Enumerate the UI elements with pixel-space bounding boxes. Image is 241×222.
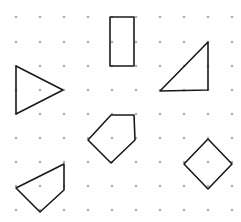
grid-dot [159, 209, 162, 212]
grid-dot [183, 185, 186, 188]
grid-dot [87, 16, 90, 19]
grid-dot [39, 65, 42, 68]
grid-dot [135, 209, 138, 212]
grid-dot [183, 16, 186, 19]
right-triangle-shape [160, 42, 208, 91]
grid-dot [183, 41, 186, 44]
grid-dot [159, 65, 162, 68]
grid-dot [63, 209, 66, 212]
rectangle-shape [110, 17, 134, 66]
grid-dot [63, 16, 66, 19]
grid-dot [135, 185, 138, 188]
grid-dot [159, 161, 162, 164]
grid-dot [63, 113, 66, 116]
grid-dot [135, 161, 138, 164]
shapes-layer [16, 17, 232, 212]
grid-dot [231, 209, 234, 212]
grid-dot [111, 209, 114, 212]
grid-dot [207, 161, 210, 164]
grid-dot [39, 89, 42, 92]
grid-dot [87, 185, 90, 188]
grid-dot [159, 41, 162, 44]
grid-dot [15, 41, 18, 44]
grid-dot [111, 41, 114, 44]
grid-dot [135, 89, 138, 92]
grid-dot [183, 209, 186, 212]
grid-dot [231, 137, 234, 140]
grid-dot [111, 89, 114, 92]
grid-dot [135, 16, 138, 19]
grid-dot [63, 65, 66, 68]
grid-dot [63, 161, 66, 164]
grid-dot [15, 209, 18, 212]
grid-dot [207, 113, 210, 116]
quadrilateral-shape [16, 164, 64, 212]
grid-dot [87, 89, 90, 92]
grid-dot [135, 41, 138, 44]
grid-dot [63, 137, 66, 140]
grid-dot [231, 16, 234, 19]
grid-dot [87, 65, 90, 68]
grid-dot [183, 113, 186, 116]
grid-dot [39, 41, 42, 44]
grid-dot [135, 113, 138, 116]
grid-dot [159, 16, 162, 19]
grid-dot [159, 113, 162, 116]
grid-dot [39, 185, 42, 188]
grid-dot [231, 113, 234, 116]
grid-dot [231, 65, 234, 68]
grid-dot [183, 137, 186, 140]
grid-dot [39, 137, 42, 140]
grid-dot [39, 16, 42, 19]
dot-grid-diagram [0, 0, 241, 222]
grid-dot [87, 209, 90, 212]
square-diamond-shape [184, 139, 232, 189]
grid-dot [207, 209, 210, 212]
grid-dot [159, 185, 162, 188]
grid-dot [15, 16, 18, 19]
grid-dot [207, 16, 210, 19]
grid-dot [159, 137, 162, 140]
grid-dot [63, 41, 66, 44]
grid-dot [15, 137, 18, 140]
grid-dot [87, 161, 90, 164]
grid-dot [231, 185, 234, 188]
grid-dot [111, 185, 114, 188]
grid-dot [87, 113, 90, 116]
grid-dot [111, 137, 114, 140]
grid-dot [135, 65, 138, 68]
grid-dot [39, 161, 42, 164]
grid-dot [231, 41, 234, 44]
grid-dot [39, 113, 42, 116]
grid-dot [15, 161, 18, 164]
grid-dot [87, 41, 90, 44]
grid-dot [231, 89, 234, 92]
